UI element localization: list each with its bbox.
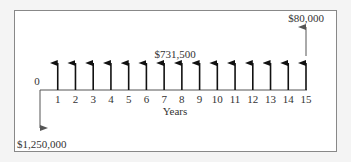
period-label-2: 2 [73,93,79,105]
period-label-9: 9 [197,93,203,105]
period-label-11: 11 [230,93,241,105]
period-label-15: 15 [301,93,313,105]
period-label-10: 10 [212,93,224,105]
cash-flow-diagram: 0 $1,250,000 $731,500 $80,000 Years 1234… [0,0,351,162]
axis-label: Years [163,105,188,117]
period-label-1: 1 [55,93,61,105]
initial-outflow-label: $1,250,000 [17,138,67,150]
period-label-12: 12 [247,93,258,105]
period-label-8: 8 [179,93,185,105]
period-label-13: 13 [265,93,277,105]
salvage-label: $80,000 [288,12,324,24]
origin-label: 0 [34,75,40,87]
period-label-6: 6 [144,93,150,105]
period-label-7: 7 [161,93,167,105]
period-label-14: 14 [283,93,295,105]
period-label-5: 5 [126,93,132,105]
period-label-4: 4 [108,93,114,105]
period-label-3: 3 [90,93,96,105]
annual-inflow-label: $731,500 [154,48,196,60]
